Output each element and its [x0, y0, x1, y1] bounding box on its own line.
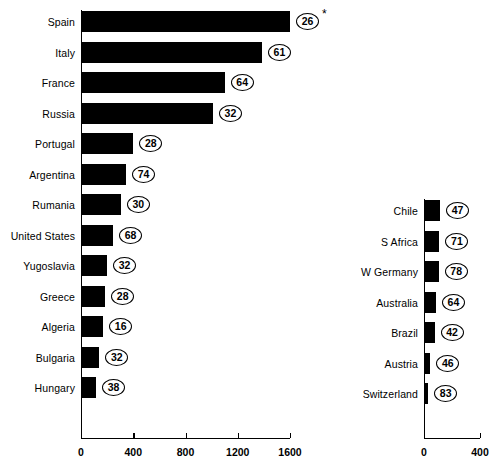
axis-tick-label: 0: [404, 446, 444, 458]
bar-row: W Germany78: [330, 261, 496, 283]
bar-row: Austria46: [330, 353, 496, 375]
rank-badge: 16: [109, 318, 132, 335]
rank-badge: 26: [296, 13, 319, 30]
footnote-asterisk: *: [322, 8, 327, 20]
bar: [81, 42, 262, 63]
rank-badge: 30: [127, 196, 150, 213]
rank-badge: 38: [102, 379, 125, 396]
rank-badge: 28: [111, 288, 134, 305]
left-y-axis-line: [81, 10, 82, 438]
category-label: Spain: [0, 11, 75, 33]
bar: [81, 286, 105, 307]
bar-row: Russia32: [0, 103, 330, 125]
bar: [424, 200, 440, 221]
bar: [81, 164, 126, 185]
bar-row: S Africa71: [330, 231, 496, 253]
category-label: Italy: [0, 42, 75, 64]
bar-row: Switzerland83: [330, 383, 496, 405]
axis-tick: [238, 433, 239, 438]
bar-chart-figure: Spain26*Italy61France64Russia32Portugal2…: [0, 0, 496, 475]
bar-row: Bulgaria32: [0, 347, 330, 369]
axis-tick-label: 1200: [218, 446, 258, 458]
axis-tick-label: 800: [166, 446, 206, 458]
rank-badge: 71: [445, 233, 468, 250]
bar: [81, 225, 113, 246]
bar: [81, 255, 107, 276]
rank-badge: 83: [434, 385, 457, 402]
rank-badge: 64: [442, 294, 465, 311]
bar: [81, 72, 225, 93]
rank-badge: 42: [441, 324, 464, 341]
bar-row: Argentina74: [0, 164, 330, 186]
bar: [424, 231, 439, 252]
category-label: Rumania: [0, 194, 75, 216]
rank-badge: 32: [105, 349, 128, 366]
category-label: Algeria: [0, 316, 75, 338]
category-label: W Germany: [330, 261, 418, 283]
bar-row: Portugal28: [0, 133, 330, 155]
axis-tick: [290, 433, 291, 438]
bar-row: Hungary38: [0, 377, 330, 399]
bar: [81, 133, 133, 154]
left-chart-panel: Spain26*Italy61France64Russia32Portugal2…: [0, 0, 330, 475]
category-label: Russia: [0, 103, 75, 125]
right-y-axis-line: [424, 199, 425, 438]
axis-tick: [424, 433, 425, 438]
category-label: Austria: [330, 353, 418, 375]
axis-tick: [186, 433, 187, 438]
bar-row: United States68: [0, 225, 330, 247]
bar: [81, 194, 121, 215]
bar-row: Australia64: [330, 292, 496, 314]
bar-row: Brazil42: [330, 322, 496, 344]
bar: [81, 103, 213, 124]
rank-badge: 68: [119, 227, 142, 244]
axis-tick: [133, 433, 134, 438]
rank-badge: 32: [113, 257, 136, 274]
category-label: Switzerland: [330, 383, 418, 405]
bar-row: Chile47: [330, 200, 496, 222]
rank-badge: 28: [139, 135, 162, 152]
rank-badge: 47: [446, 202, 469, 219]
category-label: Argentina: [0, 164, 75, 186]
category-label: France: [0, 72, 75, 94]
category-label: Brazil: [330, 322, 418, 344]
rank-badge: 32: [219, 105, 242, 122]
rank-badge: 64: [231, 74, 254, 91]
bar-row: Yugoslavia32: [0, 255, 330, 277]
bar: [424, 322, 435, 343]
bar: [81, 377, 96, 398]
axis-tick-label: 400: [113, 446, 153, 458]
right-chart-panel: Chile47S Africa71W Germany78Australia64B…: [330, 0, 496, 475]
bar-row: Spain26*: [0, 11, 330, 33]
bar: [424, 261, 439, 282]
axis-tick: [480, 433, 481, 438]
rank-badge: 74: [132, 166, 155, 183]
bar-row: Algeria16: [0, 316, 330, 338]
bar: [81, 347, 99, 368]
category-label: United States: [0, 225, 75, 247]
rank-badge: 78: [445, 263, 468, 280]
axis-tick-label: 0: [61, 446, 101, 458]
category-label: Bulgaria: [0, 347, 75, 369]
bar: [81, 11, 290, 32]
rank-badge: 61: [268, 44, 291, 61]
bar-row: Greece28: [0, 286, 330, 308]
category-label: Hungary: [0, 377, 75, 399]
category-label: Australia: [330, 292, 418, 314]
bar-row: France64: [0, 72, 330, 94]
category-label: Portugal: [0, 133, 75, 155]
axis-tick-label: 400: [460, 446, 496, 458]
bar-row: Italy61: [0, 42, 330, 64]
axis-tick-label: 1600: [270, 446, 310, 458]
right-x-axis-line: [424, 438, 480, 439]
left-x-axis-line: [81, 438, 290, 439]
bar: [81, 316, 103, 337]
bar: [424, 292, 436, 313]
category-label: Yugoslavia: [0, 255, 75, 277]
category-label: S Africa: [330, 231, 418, 253]
axis-tick: [81, 433, 82, 438]
category-label: Chile: [330, 200, 418, 222]
bar-row: Rumania30: [0, 194, 330, 216]
rank-badge: 46: [436, 355, 459, 372]
category-label: Greece: [0, 286, 75, 308]
